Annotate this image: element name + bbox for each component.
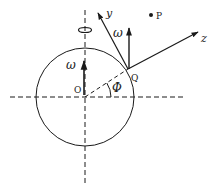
point-P-dot — [149, 13, 153, 17]
y-axis-label: y — [105, 7, 113, 20]
z-axis-label: z — [200, 32, 207, 45]
point-Q-label: Q — [131, 73, 138, 83]
z-axis-arrow — [128, 32, 198, 69]
phi-angle-label: Φ — [112, 81, 122, 95]
omega-label-at-O: ω — [66, 58, 76, 72]
omega-label-at-Q: ω — [113, 26, 123, 40]
center-O-label: O — [74, 85, 81, 95]
diagram-canvas: y z ω ω P Q O Φ — [0, 0, 214, 193]
point-P-label: P — [156, 11, 162, 21]
phi-angle-arc — [107, 83, 111, 97]
y-axis-arrow — [98, 13, 128, 69]
